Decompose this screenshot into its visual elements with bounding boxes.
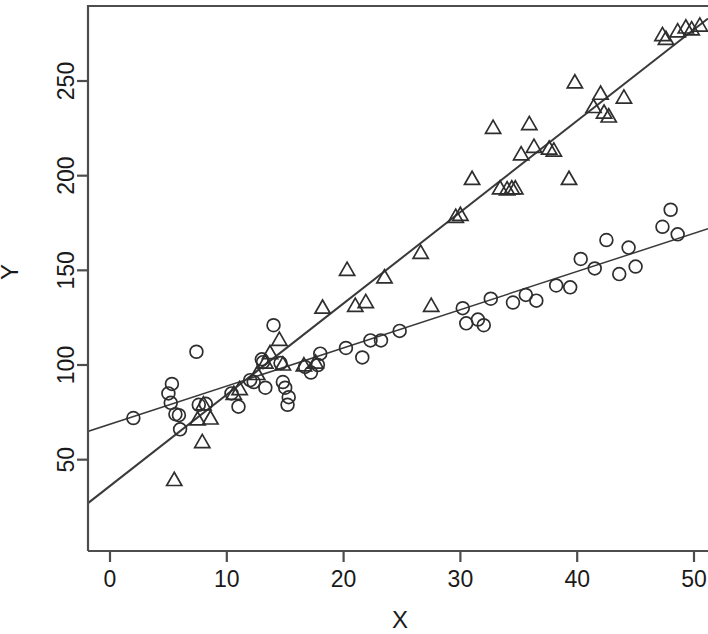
regression-lines-group: [85, 19, 708, 506]
circle-data-point: [232, 400, 245, 413]
x-tick-label: 10: [214, 566, 240, 592]
x-tick-label: 0: [104, 566, 117, 592]
x-tick-label: 20: [331, 566, 357, 592]
circle-data-point: [600, 234, 613, 247]
scatter-plot-figure: 0102030405050100150200250 X Y: [0, 0, 708, 634]
circle-data-point: [656, 220, 669, 233]
x-tick-label: 30: [448, 566, 474, 592]
triangle-data-point: [601, 109, 616, 122]
circle-data-point: [564, 281, 577, 294]
triangle-data-point: [616, 90, 631, 103]
x-axis-title: X: [392, 606, 408, 633]
triangle-data-point: [522, 116, 537, 129]
circle-data-point: [174, 423, 187, 436]
circle-data-point: [507, 296, 520, 309]
triangle-data-point: [340, 262, 355, 275]
circle-data-point: [588, 262, 601, 275]
y-tick-label: 50: [53, 447, 79, 473]
triangle-data-point: [464, 171, 479, 184]
y-tick-label: 100: [53, 346, 79, 384]
circle-data-point: [259, 381, 272, 394]
y-tick-label: 200: [53, 156, 79, 194]
circle-data-point: [629, 260, 642, 273]
axis-ticks-group: [77, 81, 694, 562]
plot-canvas: 0102030405050100150200250 X Y: [0, 0, 708, 634]
circle-data-point: [613, 268, 626, 281]
circle-data-point: [664, 203, 677, 216]
circle-regression-line: [85, 229, 708, 433]
circle-data-point: [550, 279, 563, 292]
triangle-data-point: [424, 298, 439, 311]
triangle-data-point: [561, 171, 576, 184]
y-tick-label: 150: [53, 251, 79, 289]
axis-tick-labels-group: 0102030405050100150200250: [53, 62, 707, 592]
circle-data-point: [267, 319, 280, 332]
x-tick-label: 40: [564, 566, 590, 592]
triangle-data-point: [272, 332, 287, 345]
triangle-data-point: [486, 120, 501, 133]
triangle-data-point: [586, 99, 601, 112]
circle-data-point: [190, 345, 203, 358]
triangle-data-point: [195, 434, 210, 447]
triangle-regression-line: [85, 19, 708, 506]
circle-data-point: [356, 351, 369, 364]
triangle-data-point: [567, 75, 582, 88]
triangle-data-point: [167, 472, 182, 485]
x-tick-label: 50: [681, 566, 707, 592]
circle-data-point: [530, 294, 543, 307]
triangle-data-point: [315, 300, 330, 313]
y-axis-title: Y: [0, 264, 23, 280]
y-tick-label: 250: [53, 62, 79, 100]
circle-data-point: [622, 241, 635, 254]
triangle-data-point: [514, 147, 529, 160]
circle-data-point: [574, 253, 587, 266]
